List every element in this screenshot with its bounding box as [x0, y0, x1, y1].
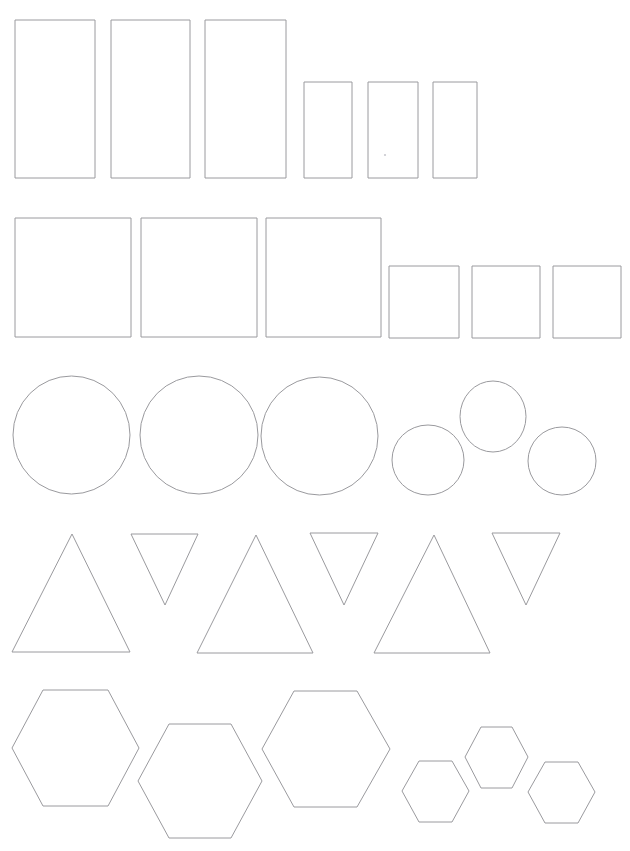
- square-small-2: [472, 266, 540, 338]
- squares-row: [15, 218, 621, 338]
- circle-large-1: [13, 376, 130, 494]
- square-large-3: [266, 218, 381, 337]
- triangle-up-1: [12, 534, 130, 652]
- circle-large-3: [261, 377, 378, 495]
- hexagon-large-1: [12, 690, 139, 806]
- triangle-down-1: [131, 534, 198, 605]
- shapes-canvas: [0, 0, 630, 851]
- circle-small-1: [392, 425, 464, 495]
- triangle-down-3: [492, 533, 560, 605]
- square-small-1: [389, 266, 459, 338]
- hexagon-small-3: [528, 762, 595, 823]
- hexagon-small-2: [465, 727, 528, 788]
- hexagon-small-1: [402, 761, 469, 822]
- rectangle-small-3: [433, 82, 477, 178]
- rectangle-small-2: [368, 82, 418, 178]
- triangle-down-2: [310, 533, 378, 605]
- square-small-3: [553, 266, 621, 338]
- triangle-up-3: [374, 535, 490, 653]
- hexagon-large-2: [138, 724, 262, 838]
- circle-large-2: [140, 376, 258, 494]
- scan-speck-1: [384, 154, 386, 156]
- rectangle-large-3: [205, 20, 286, 178]
- hexagon-large-3: [262, 691, 390, 807]
- circle-small-3: [528, 427, 596, 495]
- scan-artifacts: [384, 154, 386, 156]
- circles-row: [13, 376, 596, 495]
- triangle-up-2: [197, 535, 313, 653]
- rectangle-small-1: [304, 82, 352, 178]
- circle-small-2: [460, 381, 526, 452]
- rectangle-large-1: [15, 20, 95, 178]
- square-large-2: [141, 218, 257, 337]
- triangles-row: [12, 533, 560, 653]
- hexagons-row: [12, 690, 595, 838]
- rectangle-large-2: [111, 20, 190, 178]
- rectangles-row: [15, 20, 477, 178]
- square-large-1: [15, 218, 131, 337]
- shapes-worksheet-page: [0, 0, 630, 851]
